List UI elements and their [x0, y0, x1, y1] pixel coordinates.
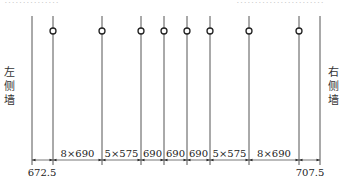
dimension-label: 690 [189, 148, 208, 159]
node-circle-icon [138, 28, 144, 34]
arrow-icon [164, 159, 168, 162]
arrow-icon [161, 159, 165, 162]
node-circle-icon [246, 28, 252, 34]
left-wall-char: 侧 [3, 80, 15, 94]
arrow-icon [296, 159, 300, 162]
right-wall-label: 右 侧 墙 [327, 66, 339, 108]
end-dimension-left: 672.5 [28, 167, 57, 178]
node-circle-icon [184, 28, 190, 34]
arrow-icon [53, 159, 57, 162]
left-wall-char: 墙 [3, 94, 15, 108]
arrow-icon [210, 159, 214, 162]
arrow-icon [50, 159, 54, 162]
node-circle-icon [207, 28, 213, 34]
arrow-icon [317, 159, 321, 162]
arrow-icon [187, 159, 191, 162]
dimension-label: 690 [143, 148, 162, 159]
left-wall-char: 左 [3, 66, 15, 80]
arrow-icon [32, 159, 36, 162]
dimension-label: 8×690 [61, 148, 95, 159]
arrow-icon [299, 159, 303, 162]
right-wall-char: 侧 [327, 80, 339, 94]
right-wall-char: 右 [327, 66, 339, 80]
right-wall-char: 墙 [327, 94, 339, 108]
node-circle-icon [99, 28, 105, 34]
dimension-label: 690 [166, 148, 185, 159]
end-dimension-right: 707.5 [296, 167, 325, 178]
dimension-label: 5×575 [105, 148, 139, 159]
dimension-label: 5×575 [213, 148, 247, 159]
arrow-icon [249, 159, 253, 162]
arrow-icon [207, 159, 211, 162]
node-circle-icon [50, 28, 56, 34]
arrow-icon [246, 159, 250, 162]
arrow-icon [102, 159, 106, 162]
node-circle-icon [161, 28, 167, 34]
arrow-icon [138, 159, 142, 162]
arrow-icon [99, 159, 103, 162]
arrow-icon [184, 159, 188, 162]
dimension-label: 8×690 [257, 148, 291, 159]
layout-diagram: 8×6905×5756906906905×5758×690672.5707.5 [0, 0, 350, 185]
left-wall-label: 左 侧 墙 [3, 66, 15, 108]
node-circle-icon [296, 28, 302, 34]
arrow-icon [141, 159, 145, 162]
